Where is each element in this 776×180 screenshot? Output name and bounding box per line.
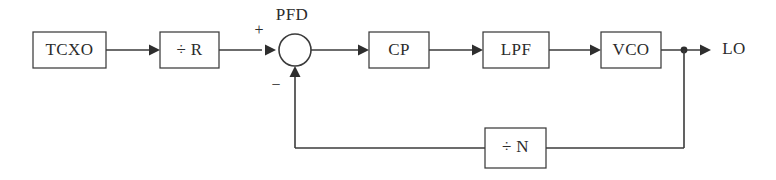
arrow-pfd-to-cp [358, 45, 369, 56]
pfd-plus-sign: + [254, 21, 263, 38]
block-vco-label: VCO [612, 40, 649, 59]
arrow-feedback-into-pfd [290, 66, 301, 77]
arrow-to-lo [700, 45, 711, 56]
output-lo-label: LO [722, 39, 745, 58]
arrow-lpf-to-vco [590, 45, 601, 56]
arrow-tcxo-to-divr [149, 45, 160, 56]
arrow-divr-to-pfd [265, 45, 276, 56]
pll-block-diagram: TCXO ÷ R CP LPF VCO ÷ N PFD + − [0, 0, 776, 180]
pfd-circle [279, 34, 311, 66]
block-divide-n[interactable]: ÷ N [485, 128, 546, 168]
block-lpf-label: LPF [501, 40, 532, 59]
summing-junction-pfd[interactable] [279, 34, 311, 66]
diagram-canvas: TCXO ÷ R CP LPF VCO ÷ N PFD + − [0, 0, 776, 180]
arrow-cp-to-lpf [472, 45, 483, 56]
block-tcxo[interactable]: TCXO [33, 32, 106, 68]
pfd-label: PFD [276, 5, 308, 24]
block-lpf[interactable]: LPF [483, 32, 549, 68]
block-cp-label: CP [388, 40, 410, 59]
block-cp[interactable]: CP [369, 32, 429, 68]
block-divide-r[interactable]: ÷ R [160, 32, 219, 68]
pfd-minus-sign: − [271, 76, 280, 93]
block-tcxo-label: TCXO [46, 40, 94, 59]
block-divide-n-label: ÷ N [502, 137, 529, 156]
block-divide-r-label: ÷ R [176, 40, 202, 59]
block-vco[interactable]: VCO [601, 32, 661, 68]
